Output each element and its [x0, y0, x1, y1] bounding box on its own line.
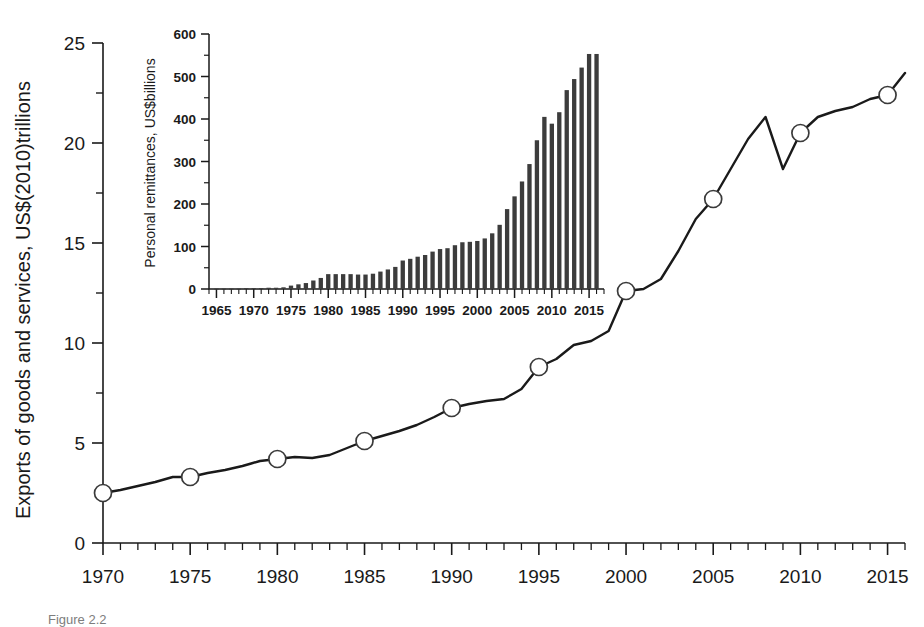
inset-x-tick-label: 1970 — [239, 303, 269, 318]
inset-bar — [363, 275, 367, 289]
main-y-axis-title: Exports of goods and services, US$(2010)… — [12, 81, 34, 519]
inset-bar — [527, 164, 531, 289]
inset-bar — [460, 242, 464, 289]
inset-bar — [259, 288, 263, 289]
inset-bar — [535, 140, 539, 289]
inset-bar — [266, 288, 270, 289]
main-y-tick-label: 25 — [64, 33, 85, 54]
main-data-marker — [879, 87, 896, 104]
inset-bar — [408, 259, 412, 289]
inset-bar — [475, 241, 479, 289]
inset-x-tick-label: 1985 — [350, 303, 381, 318]
inset-bar — [587, 54, 591, 289]
inset-bar — [348, 274, 352, 289]
inset-bar — [386, 269, 390, 289]
inset-bar — [416, 257, 420, 289]
main-x-tick-label: 1980 — [256, 566, 298, 587]
inset-bar — [341, 274, 345, 289]
inset-bar — [483, 238, 487, 289]
main-data-marker — [530, 359, 547, 376]
main-y-tick-label: 10 — [64, 333, 85, 354]
main-x-tick-label: 1985 — [343, 566, 385, 587]
inset-x-tick-label: 1965 — [201, 303, 232, 318]
inset-bar — [542, 117, 546, 289]
main-data-marker — [356, 433, 373, 450]
main-series-path — [103, 73, 905, 493]
inset-bar-series — [214, 54, 598, 290]
inset-bar — [326, 274, 330, 289]
inset-x-tick-label: 1980 — [313, 303, 343, 318]
inset-bar — [371, 274, 375, 289]
inset-y-tick-label: 200 — [173, 197, 196, 212]
inset-bar — [430, 252, 434, 289]
inset-bar — [401, 261, 405, 289]
inset-bar — [281, 287, 285, 289]
inset-y-tick-label: 100 — [173, 240, 196, 255]
inset-bar — [229, 289, 233, 290]
main-x-tick-label: 1970 — [82, 566, 124, 587]
inset-bar — [334, 274, 338, 289]
inset-bar — [445, 248, 449, 289]
inset-bar — [252, 288, 256, 289]
main-data-marker — [182, 469, 199, 486]
main-line-series — [103, 73, 905, 493]
inset-bar — [304, 283, 308, 289]
main-axes — [92, 43, 905, 555]
main-data-marker — [443, 400, 460, 417]
inset-x-tick-label: 1995 — [425, 303, 456, 318]
inset-bar — [319, 278, 323, 289]
inset-y-axis-title: Personal remittances, US$billions — [142, 58, 158, 267]
inset-bar — [244, 288, 248, 289]
inset-y-tick-label: 400 — [173, 112, 196, 127]
inset-bar — [237, 289, 241, 290]
inset-y-tick-label: 0 — [188, 282, 196, 297]
main-axis-spine — [103, 43, 905, 543]
inset-bar — [512, 196, 516, 289]
main-x-tick-label: 2005 — [692, 566, 734, 587]
inset-bar — [423, 255, 427, 289]
inset-x-tick-label: 2005 — [500, 303, 531, 318]
main-x-tick-label: 1995 — [518, 566, 560, 587]
main-y-tick-label: 20 — [64, 133, 85, 154]
inset-bar — [490, 233, 494, 289]
main-data-marker — [269, 451, 286, 468]
main-x-tick-label: 2015 — [866, 566, 908, 587]
main-data-marker — [95, 485, 112, 502]
inset-bar — [557, 112, 561, 289]
inset-bar — [274, 288, 278, 289]
inset-bar — [572, 79, 576, 289]
inset-y-tick-label: 600 — [173, 27, 196, 42]
main-data-marker — [618, 283, 635, 300]
inset-bar — [438, 249, 442, 289]
inset-bar — [594, 54, 598, 289]
figure-container: 0510152025197019751980198519901995200020… — [0, 0, 924, 627]
inset-bar — [453, 245, 457, 289]
inset-bar — [520, 181, 524, 289]
main-y-tick-label: 5 — [74, 433, 85, 454]
main-data-marker — [705, 191, 722, 208]
inset-bar — [356, 275, 360, 289]
inset-x-tick-label: 2000 — [462, 303, 492, 318]
inset-x-tick-label: 2010 — [537, 303, 567, 318]
main-x-tick-label: 2000 — [605, 566, 647, 587]
main-x-tick-label: 2010 — [779, 566, 821, 587]
inset-x-tick-label: 1975 — [276, 303, 307, 318]
main-data-marker — [792, 125, 809, 142]
main-x-tick-label: 1990 — [431, 566, 473, 587]
inset-y-tick-label: 300 — [173, 155, 196, 170]
main-x-tick-label: 1975 — [169, 566, 211, 587]
inset-bar — [498, 225, 502, 289]
inset-chart: 0100200300400500600196519701975198019851… — [142, 27, 605, 318]
inset-bar — [565, 90, 569, 289]
inset-bar — [468, 242, 472, 289]
main-y-tick-label: 0 — [74, 533, 85, 554]
inset-bar — [311, 281, 315, 290]
inset-bar — [289, 286, 293, 289]
figure-caption: Figure 2.2 — [48, 612, 107, 627]
inset-x-tick-label: 2015 — [574, 303, 605, 318]
inset-bar — [222, 289, 226, 290]
inset-y-tick-label: 500 — [173, 70, 196, 85]
inset-bar — [378, 272, 382, 289]
inset-x-tick-label: 1990 — [388, 303, 418, 318]
inset-bar — [393, 267, 397, 289]
